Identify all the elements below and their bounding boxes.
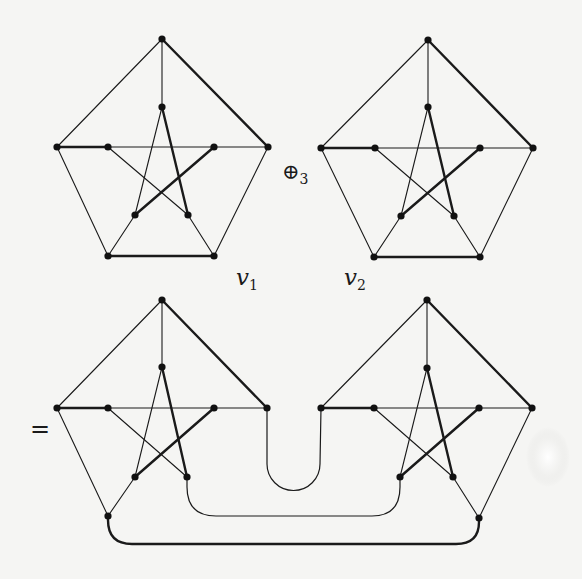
scan-blemish (526, 427, 570, 487)
label-v1-sub: 1 (249, 277, 258, 293)
label-v1-name: v (236, 264, 249, 290)
equals-sign: = (30, 415, 50, 443)
graph-drawing (0, 0, 582, 579)
petersen-graph-v2 (317, 36, 536, 260)
operator-subscript: 3 (300, 171, 309, 187)
oplus-symbol: ⊕ (282, 160, 300, 184)
label-v2-sub: 2 (357, 277, 366, 293)
petersen-3-sum-figure: ⊕3 v1 v2 = (0, 0, 582, 579)
label-v1: v1 (236, 264, 258, 290)
label-v2: v2 (344, 264, 366, 290)
resulting-3-sum-graph (53, 296, 535, 544)
petersen-graph-v1 (53, 35, 271, 259)
oplus-3-operator: ⊕3 (282, 160, 309, 184)
label-v2-name: v (344, 264, 357, 290)
